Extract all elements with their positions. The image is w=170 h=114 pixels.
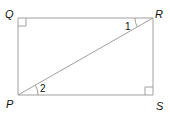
vertex-label-s: S (156, 100, 164, 112)
right-angle-marker-q (18, 18, 26, 26)
vertex-label-q: Q (5, 8, 14, 20)
diagonal-pr (18, 18, 153, 95)
angle-arc-1 (135, 18, 137, 27)
angle-label-2: 2 (40, 83, 46, 94)
angle-label-1: 1 (125, 21, 131, 32)
angle-arc-2 (35, 85, 38, 95)
vertex-label-r: R (155, 8, 163, 20)
rectangle-diagram: Q R P S 1 2 (0, 0, 170, 114)
vertex-label-p: P (6, 98, 14, 110)
right-angle-marker-s (145, 87, 153, 95)
